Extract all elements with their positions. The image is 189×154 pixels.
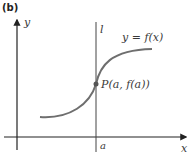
curve-label: y = f(x) — [121, 31, 163, 44]
line-label: l — [100, 23, 104, 36]
x-tick-label: a — [100, 140, 106, 151]
panel-label: (b) — [2, 2, 18, 13]
point-label: P(a, f(a)) — [100, 78, 150, 91]
x-axis-label: x — [181, 142, 188, 154]
diagram: (b) y x l y = f(x) P(a, f(a)) a — [0, 0, 189, 154]
y-axis-label: y — [23, 16, 31, 29]
point-p — [94, 82, 99, 87]
